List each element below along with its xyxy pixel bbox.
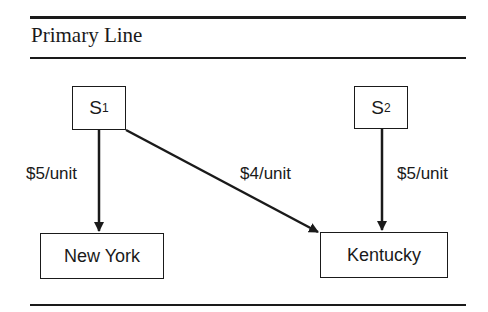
node-new-york-label: New York — [64, 246, 140, 267]
node-s2: S2 — [354, 86, 408, 129]
node-new-york: New York — [40, 233, 164, 279]
edge-label-s1-kentucky: $4/unit — [240, 164, 291, 184]
node-s1-label: S — [89, 97, 102, 119]
node-s2-subscript: 2 — [384, 101, 391, 115]
node-kentucky: Kentucky — [320, 232, 448, 278]
edge-label-s2-kentucky: $5/unit — [397, 164, 448, 184]
node-s1: S1 — [72, 86, 126, 130]
node-s1-subscript: 1 — [102, 101, 109, 115]
bottom-rule — [30, 304, 466, 306]
node-s2-label: S — [371, 97, 384, 119]
node-kentucky-label: Kentucky — [347, 245, 421, 266]
edge-label-s1-newyork: $5/unit — [26, 164, 77, 184]
